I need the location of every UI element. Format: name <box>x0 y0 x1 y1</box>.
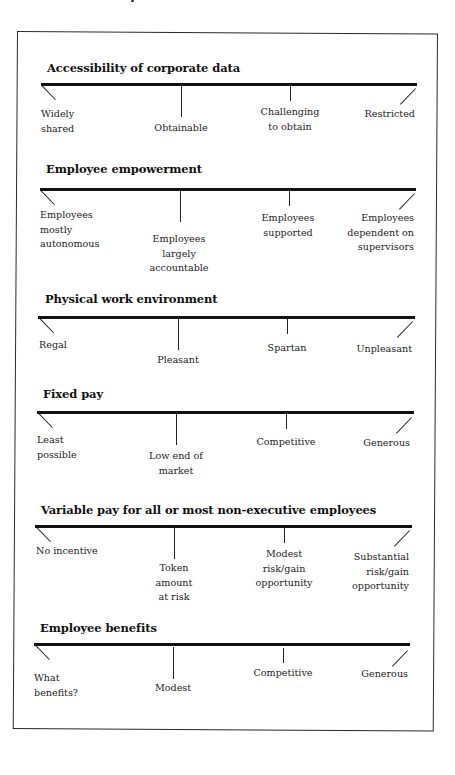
scale-point-3: Competitive <box>243 666 323 681</box>
scale-title: Accessibility of corporate data <box>47 61 240 75</box>
tick-2 <box>181 85 182 117</box>
scale-title: Fixed pay <box>43 387 103 401</box>
scale-point-1: Regal <box>39 338 67 353</box>
scale-axis <box>38 316 415 319</box>
scale-point-3: Challenging to obtain <box>250 105 330 134</box>
scan-speck <box>131 0 134 2</box>
scale-point-1: What benefits? <box>34 671 78 700</box>
scale-point-1: Least possible <box>37 433 77 462</box>
scale-point-3: Employees supported <box>248 211 328 240</box>
scale-point-4: Restricted <box>334 107 415 122</box>
tick-3 <box>287 319 288 334</box>
scale-point-4: Generous <box>330 436 410 451</box>
scale-point-1: Widely shared <box>41 107 74 136</box>
scale-point-4: Generous <box>328 667 408 682</box>
scale-title: Variable pay for all or most non-executi… <box>41 503 376 517</box>
scale-axis <box>37 411 414 414</box>
scale-axis <box>34 643 410 646</box>
tick-3 <box>286 414 287 429</box>
scale-point-4: Substantial risk/gain opportunity <box>320 550 409 594</box>
tick-3 <box>284 528 285 543</box>
scale-title: Physical work environment <box>45 292 217 306</box>
scale-point-2: Modest <box>133 681 213 696</box>
tick-2 <box>180 190 181 222</box>
scale-point-3: Spartan <box>247 341 327 356</box>
scale-point-4: Unpleasant <box>330 342 412 357</box>
tick-2 <box>173 647 174 679</box>
scale-point-1: No incentive <box>36 544 98 559</box>
tick-3 <box>283 648 284 663</box>
tick-3 <box>289 191 290 206</box>
tick-2 <box>174 527 175 559</box>
scale-point-3: Modest risk/gain opportunity <box>239 547 329 591</box>
scale-title: Employee empowerment <box>46 162 202 176</box>
scale-point-3: Competitive <box>246 435 326 450</box>
scale-axis <box>40 188 416 191</box>
scale-point-4: Employees dependent on supervisors <box>324 211 414 255</box>
scale-point-2: Obtainable <box>141 121 221 136</box>
tick-2 <box>178 318 179 350</box>
scale-axis <box>41 83 417 86</box>
scale-point-2: Token amount at risk <box>134 561 214 605</box>
scale-point-2: Pleasant <box>138 353 218 368</box>
scale-title: Employee benefits <box>40 621 157 635</box>
scale-point-2: Employees largely accountable <box>134 232 224 276</box>
scale-axis <box>35 525 412 528</box>
scale-point-1: Employees mostly autonomous <box>40 208 99 252</box>
tick-3 <box>290 86 291 101</box>
tick-2 <box>176 413 177 445</box>
scale-point-2: Low end of market <box>136 449 216 478</box>
